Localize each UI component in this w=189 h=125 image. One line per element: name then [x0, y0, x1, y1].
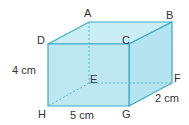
cuboid-figure	[0, 0, 189, 125]
dimension-width-label: 2 cm	[155, 93, 179, 104]
vertex-label-h: H	[38, 109, 46, 120]
vertex-label-b: B	[166, 10, 173, 21]
dimension-height-label: 4 cm	[12, 65, 36, 76]
vertex-label-e: E	[90, 74, 97, 85]
dimension-length-label: 5 cm	[70, 110, 94, 121]
vertex-label-g: G	[122, 109, 131, 120]
vertex-label-f: F	[174, 73, 181, 84]
vertex-label-a: A	[84, 8, 91, 19]
vertex-label-d: D	[37, 35, 45, 46]
vertex-label-c: C	[122, 35, 130, 46]
